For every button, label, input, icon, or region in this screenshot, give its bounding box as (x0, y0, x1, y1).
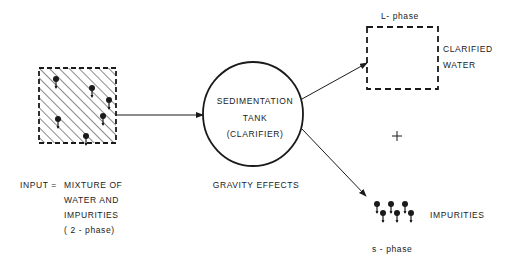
arrow-tank-to-liquid (302, 63, 367, 99)
input-label: INPUT = (20, 181, 57, 190)
input-mixture-box (39, 68, 116, 146)
tank-label-line-1: SEDIMENTATION (217, 97, 293, 106)
tank-label-line-3: (CLARIFIER) (227, 130, 284, 139)
gravity-effects-caption: GRAVITY EFFECTS (213, 181, 300, 190)
arrow-tank-to-solid (302, 129, 366, 196)
input-line-1: MIXTURE OF (64, 181, 122, 190)
input-line-3: IMPURITIES (64, 211, 119, 220)
clarified-water-box (367, 27, 438, 89)
input-line-2: WATER AND (64, 196, 119, 205)
water-label: WATER (443, 61, 476, 70)
clarified-label: CLARIFIED (443, 45, 493, 54)
s-phase-label: s - phase (372, 245, 412, 254)
impurities-label: IMPURITIES (430, 211, 485, 220)
tank-label-line-2: TANK (243, 114, 267, 123)
input-phase-label: ( 2 - phase) (64, 226, 115, 235)
l-phase-label: L- phase (381, 12, 419, 21)
plus-icon (392, 131, 402, 141)
settled-impurities-icon (374, 201, 414, 223)
